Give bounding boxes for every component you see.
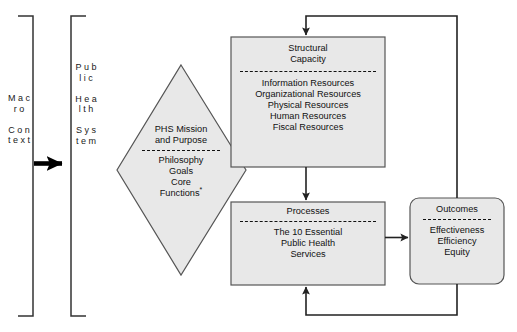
bracket-label-public-health-system: P u b l i c H e a l t h S y s t e m	[75, 62, 97, 146]
node-processes-shape	[231, 202, 385, 285]
outcomes-to-processes-feedback	[306, 284, 457, 315]
bracket-macro-context	[18, 16, 33, 316]
node-phs-mission-shape	[117, 65, 246, 275]
bracket-public-health-system	[71, 16, 86, 316]
node-outcomes-shape	[410, 198, 504, 284]
diagram-vector-layer	[0, 0, 517, 332]
diagram-canvas: M a c r o C o n t e x t P u b l i c H e …	[0, 0, 517, 332]
bracket-label-macro-context: M a c r o C o n t e x t	[8, 93, 30, 146]
node-structural-capacity-shape	[231, 37, 385, 167]
